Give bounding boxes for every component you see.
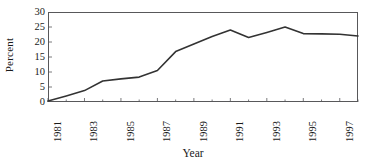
x-tick-label: 1985 [125, 121, 136, 142]
data-series-line [48, 27, 358, 101]
x-tick-label: 1995 [307, 121, 318, 142]
x-axis-title: Year [48, 147, 338, 159]
y-tick-label: 30 [25, 7, 45, 17]
x-axis-title-label: Year [182, 147, 203, 159]
x-tick-label: 1993 [271, 121, 282, 142]
y-tick-label: 5 [25, 82, 45, 92]
y-axis-tick-labels: 051015202530 [22, 0, 45, 167]
y-tick-label: 25 [25, 22, 45, 32]
x-axis-tick-labels: 198119831985198719891991199319951997 [48, 102, 358, 150]
y-axis-title: Percent [0, 0, 18, 110]
y-axis-major-ticks [48, 27, 52, 87]
x-tick-label: 1983 [88, 121, 99, 142]
x-tick-label: 1991 [234, 121, 245, 142]
plot-area [48, 12, 358, 102]
line-chart: Percent 051015202530 1981198319851987198… [0, 0, 373, 167]
y-tick-label: 20 [25, 37, 45, 47]
y-tick-label: 15 [25, 52, 45, 62]
y-axis-title-label: Percent [3, 38, 15, 72]
x-tick-label: 1997 [344, 121, 355, 142]
x-tick-label: 1987 [161, 121, 172, 142]
x-tick-label: 1989 [198, 121, 209, 142]
y-tick-label: 10 [25, 67, 45, 77]
x-tick-label: 1981 [52, 121, 63, 142]
y-tick-label: 0 [25, 97, 45, 107]
